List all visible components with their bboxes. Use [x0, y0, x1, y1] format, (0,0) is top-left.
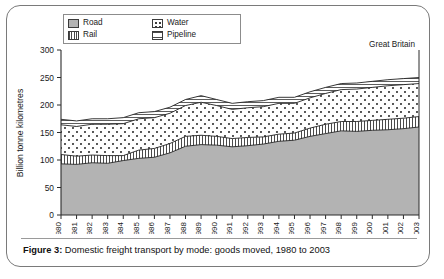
figure-card: 050100150200250300 198019811982198319841…: [6, 5, 430, 267]
x-tick-label: 1983: [101, 221, 110, 234]
y-axis-ticks: 050100150200250300: [40, 45, 61, 220]
figure-caption: Figure 3: Domestic freight transport by …: [23, 244, 419, 256]
y-tick-label: 200: [40, 100, 54, 110]
x-tick-label: 1981: [70, 221, 79, 234]
x-tick-label: 1986: [147, 221, 156, 234]
region-annotation: Great Britain: [369, 40, 415, 49]
x-tick-label: 1999: [350, 221, 359, 234]
dotted-speckle-swatch-icon: [152, 19, 163, 28]
x-tick-label: 1988: [179, 221, 188, 234]
x-tick-label: 2002: [396, 221, 405, 234]
x-tick-label: 2003: [412, 221, 421, 234]
x-tick-label: 1998: [334, 221, 343, 234]
y-tick-label: 50: [45, 183, 55, 193]
caption-text: Domestic freight transport by mode: good…: [65, 245, 330, 255]
solid-gray-swatch-icon: [68, 19, 79, 28]
legend-item-rail: Rail: [68, 31, 152, 40]
y-tick-label: 150: [40, 128, 54, 138]
vertical-lines-swatch-icon: [68, 31, 79, 40]
legend-label-water: Water: [167, 19, 189, 27]
x-tick-label: 1992: [241, 221, 250, 234]
x-axis-ticks: [61, 215, 419, 219]
legend-item-water: Water: [152, 19, 236, 28]
x-tick-label: 1997: [319, 221, 328, 234]
legend-item-pipeline: Pipeline: [152, 31, 236, 40]
x-tick-label: 1987: [163, 221, 172, 234]
x-axis-labels: 1980198119821983198419851986198719881989…: [54, 221, 421, 234]
x-tick-label: 2001: [381, 221, 390, 234]
x-tick-label: 1989: [194, 221, 203, 234]
legend-label-rail: Rail: [83, 31, 97, 39]
x-tick-label: 1996: [303, 221, 312, 234]
x-tick-label: 1995: [287, 221, 296, 234]
legend-item-road: Road: [68, 19, 152, 28]
caption-divider: [21, 238, 417, 239]
x-tick-label: 1980: [54, 221, 63, 234]
x-tick-label: 1982: [85, 221, 94, 234]
x-tick-label: 1984: [116, 221, 125, 234]
legend-label-pipeline: Pipeline: [167, 31, 196, 39]
x-tick-label: 1994: [272, 221, 281, 234]
x-tick-label: 1991: [225, 221, 234, 234]
horizontal-lines-swatch-icon: [152, 31, 163, 40]
x-tick-label: 2000: [365, 221, 374, 234]
x-tick-label: 1990: [210, 221, 219, 234]
y-tick-label: 250: [40, 73, 54, 83]
x-tick-label: 1993: [256, 221, 265, 234]
legend-label-road: Road: [83, 19, 103, 27]
x-tick-label: 1985: [132, 221, 141, 234]
chart-legend: Road Water Rail Pipeline: [63, 14, 241, 44]
caption-prefix: Figure 3:: [23, 245, 62, 255]
y-axis-title: Billion tonne kilometres: [15, 89, 25, 177]
y-tick-label: 100: [40, 155, 54, 165]
y-tick-label: 300: [40, 45, 54, 55]
y-tick-label: 0: [49, 210, 54, 220]
